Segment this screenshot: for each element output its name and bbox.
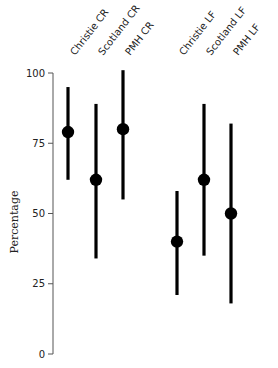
data-point-marker (225, 207, 237, 219)
data-series (62, 70, 237, 303)
y-axis-label: Percentage (8, 191, 21, 254)
data-point-group (171, 191, 183, 295)
data-point-group (225, 124, 237, 304)
category-labels: Christie CRScotland CRPMH CRChristie LFS… (68, 3, 262, 58)
data-point-marker (117, 123, 129, 135)
data-point-marker (90, 174, 102, 186)
y-tick-label: 75 (32, 138, 45, 149)
y-axis: 0255075100 (26, 68, 53, 360)
data-point-group (198, 104, 210, 256)
data-point-group (117, 70, 129, 199)
chart: 0255075100 Percentage Christie CRScotlan… (0, 0, 278, 368)
data-point-marker (62, 126, 74, 138)
y-tick-label: 25 (32, 278, 45, 289)
data-point-group (62, 87, 74, 180)
y-tick-label: 100 (26, 68, 45, 79)
data-point-marker (171, 235, 183, 247)
y-tick-label: 0 (39, 349, 45, 360)
y-tick-label: 50 (32, 208, 45, 219)
data-point-group (90, 104, 102, 259)
data-point-marker (198, 174, 210, 186)
